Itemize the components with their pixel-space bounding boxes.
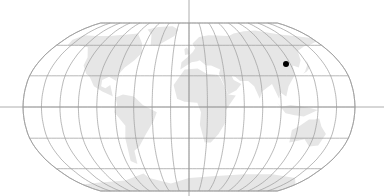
land-indonesia [277,102,319,117]
land-south-america [114,95,156,164]
location-marker-dot[interactable] [283,61,289,67]
land-masses [68,26,326,191]
world-map [0,0,384,196]
land-australia [289,119,326,147]
markers [283,61,289,67]
